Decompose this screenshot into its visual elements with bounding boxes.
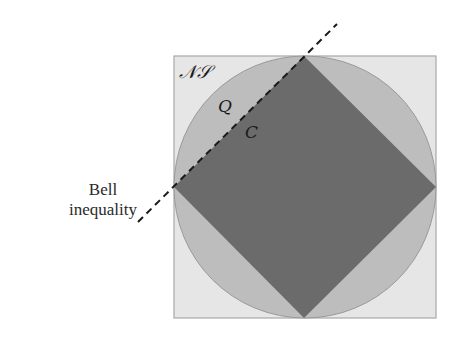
- no-signaling-label: 𝒩𝒮: [179, 61, 212, 83]
- classical-label: C: [245, 122, 258, 142]
- bell-label-line1: Bell: [40, 180, 166, 200]
- quantum-label: Q: [218, 96, 232, 116]
- correlation-sets-diagram: [0, 0, 460, 337]
- bell-label-line2: inequality: [40, 200, 166, 220]
- bell-inequality-label: Bell inequality: [40, 180, 166, 220]
